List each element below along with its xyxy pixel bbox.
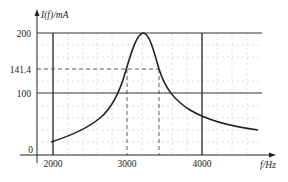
y-tick-0: 0	[28, 145, 33, 155]
x-tick-3000: 3000	[118, 159, 137, 169]
y-axis-label: I(f)/mA	[40, 10, 69, 21]
y-axis-arrow-icon	[35, 9, 40, 16]
resonance-chart: I(f)/mA 200 141.4 100 0 2000 3000 4000 f…	[0, 0, 288, 182]
y-tick-141-4: 141.4	[10, 65, 32, 75]
x-axis-arrow-icon	[269, 153, 276, 158]
minor-grid	[37, 33, 262, 155]
resonance-curve	[51, 33, 258, 142]
x-tick-2000: 2000	[44, 159, 63, 169]
x-axis-label: f/Hz	[260, 160, 276, 170]
x-tick-4000: 4000	[193, 159, 212, 169]
y-tick-200: 200	[17, 29, 32, 39]
y-tick-100: 100	[17, 89, 32, 99]
major-grid	[37, 33, 262, 155]
